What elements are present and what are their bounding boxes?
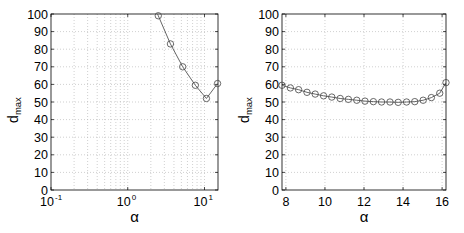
- x-tick-label: 10: [40, 195, 54, 209]
- y-tick-label: 80: [34, 43, 48, 57]
- y-tick-label: 40: [265, 113, 279, 127]
- right-plot-linear-alpha: 0102030405060708090100810121416αdmax: [236, 8, 449, 226]
- y-tick-label: 100: [258, 8, 279, 22]
- y-tick-label: 90: [34, 25, 48, 39]
- x-axis-label: α: [360, 208, 369, 225]
- y-tick-label: 20: [34, 148, 48, 162]
- left-plot-log-alpha: 010203040506070809010010-1100101αdmax: [5, 0, 221, 225]
- y-tick-label: 40: [34, 113, 48, 127]
- grid-lines: [51, 14, 218, 190]
- y-axis-label: dmax: [236, 97, 254, 123]
- x-tick-label: 10: [318, 195, 332, 209]
- x-tick-exponent: 0: [132, 193, 137, 202]
- y-tick-label: 50: [34, 96, 48, 110]
- y-tick-label: 70: [265, 60, 279, 74]
- y-axis-label: dmax: [5, 97, 23, 123]
- y-tick-label: 70: [34, 60, 48, 74]
- y-tick-label: 100: [27, 8, 48, 22]
- y-tick-label: 80: [265, 43, 279, 57]
- x-tick-label: 16: [435, 195, 449, 209]
- x-tick-label: 12: [357, 195, 371, 209]
- y-tick-label: 60: [265, 78, 279, 92]
- grid-lines: [282, 14, 446, 190]
- x-tick-label: 14: [396, 195, 410, 209]
- y-tick-label: 10: [34, 166, 48, 180]
- y-tick-label: 60: [34, 78, 48, 92]
- x-axis-label: α: [130, 208, 139, 225]
- y-tick-label: 30: [265, 131, 279, 145]
- x-tick-exponent: -1: [55, 193, 63, 202]
- y-tick-label: 0: [272, 184, 279, 198]
- x-tick-label: 10: [194, 195, 208, 209]
- x-tick-label: 10: [117, 195, 131, 209]
- x-tick-exponent: 1: [208, 193, 213, 202]
- y-tick-label: 50: [265, 96, 279, 110]
- y-tick-label: 30: [34, 131, 48, 145]
- x-tick-label: 8: [282, 195, 289, 209]
- chart-canvas: 010203040506070809010010-1100101αdmax 01…: [0, 0, 464, 233]
- y-tick-label: 20: [265, 148, 279, 162]
- y-tick-label: 90: [265, 25, 279, 39]
- figure: 010203040506070809010010-1100101αdmax 01…: [0, 0, 464, 233]
- y-tick-label: 10: [265, 166, 279, 180]
